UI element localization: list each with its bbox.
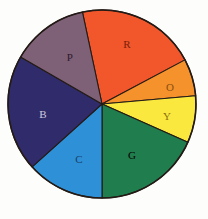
pie-slice-label-orange: O — [166, 81, 174, 93]
pie-slices-group — [8, 10, 196, 198]
pie-slice-label-green: G — [128, 149, 136, 161]
color-wheel-chart: ROYGCBP — [0, 0, 208, 219]
pie-slice-label-red: R — [123, 38, 131, 50]
color-wheel-figure: ROYGCBP — [0, 0, 208, 219]
pie-slice-label-cyan: C — [75, 153, 83, 165]
pie-slice-label-blue: B — [39, 108, 47, 120]
pie-slice-label-purple: P — [67, 51, 73, 63]
pie-slice-label-yellow: Y — [163, 110, 171, 122]
